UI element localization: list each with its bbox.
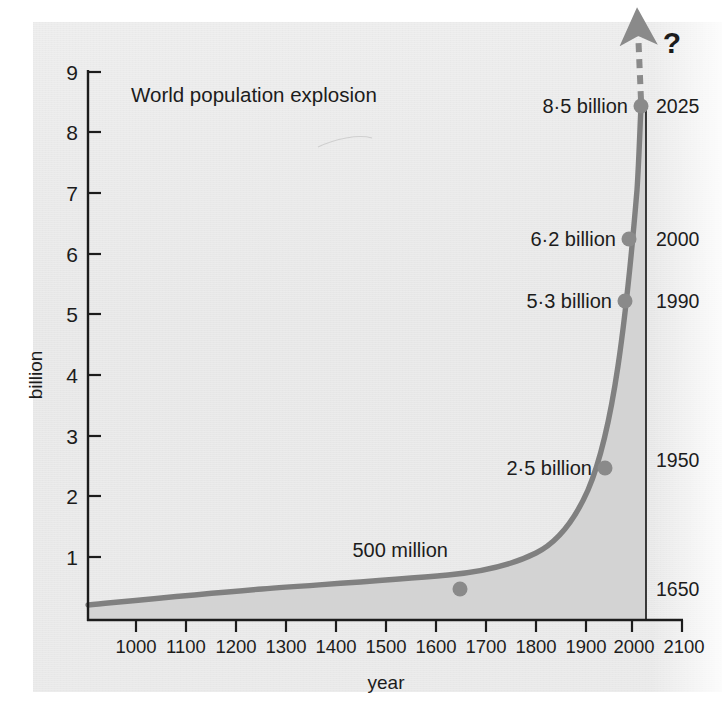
y-tick-9: 9 [66,61,78,84]
population-chart: 9 8 7 6 5 4 3 2 1 billion [0,0,722,723]
year-label-1950: 1950 [656,449,700,471]
y-axis-tick-labels: 9 8 7 6 5 4 3 2 1 [66,61,78,569]
y-tick-2: 2 [66,485,78,508]
year-label-2000: 2000 [656,228,700,250]
y-tick-5: 5 [66,303,78,326]
marker-1990[interactable] [618,294,633,309]
x-tick-1300: 1300 [265,636,306,657]
label-2-5-billion: 2·5 billion [506,457,592,479]
marker-1650[interactable] [453,582,468,597]
chart-title: World population explosion [131,83,377,106]
x-tick-1700: 1700 [465,636,506,657]
chart-page: 9 8 7 6 5 4 3 2 1 billion [0,0,722,723]
question-mark-annotation: ? [663,26,681,59]
year-annotations: 1650 1950 1990 2000 2025 [656,95,700,600]
marker-2025[interactable] [634,99,649,114]
future-projection-arrow [638,30,641,100]
label-6-2-billion: 6·2 billion [530,228,616,250]
year-label-1990: 1990 [656,290,700,312]
x-tick-1100: 1100 [166,636,206,657]
y-tick-1: 1 [66,546,78,569]
y-tick-3: 3 [66,425,78,448]
x-tick-1200: 1200 [215,636,256,657]
y-tick-8: 8 [66,121,78,144]
x-axis-tick-labels: 1000 1100 1200 1300 1400 1500 1600 1700 … [115,636,704,657]
marker-2000[interactable] [622,232,637,247]
label-500-million: 500 million [352,539,448,561]
x-axis-ticks [136,620,682,632]
marker-1950[interactable] [598,461,613,476]
population-curve [88,106,641,605]
x-tick-1800: 1800 [515,636,556,657]
y-tick-7: 7 [66,182,78,205]
x-tick-1900: 1900 [565,636,606,657]
x-axis-label: year [368,672,406,693]
year-label-2025: 2025 [656,95,700,117]
scan-artifact-mark [318,137,372,147]
x-tick-1000: 1000 [115,636,156,657]
year-label-1650: 1650 [656,578,700,600]
x-tick-1600: 1600 [415,636,456,657]
label-5-3-billion: 5·3 billion [526,290,612,312]
x-tick-2000: 2000 [613,636,654,657]
y-tick-6: 6 [66,243,78,266]
y-tick-4: 4 [66,364,78,387]
x-tick-1400: 1400 [315,636,356,657]
x-tick-1500: 1500 [365,636,406,657]
label-8-5-billion: 8·5 billion [542,95,628,117]
x-tick-2100: 2100 [663,636,704,657]
y-axis-ticks [88,72,101,557]
y-axis-label: billion [25,351,46,400]
